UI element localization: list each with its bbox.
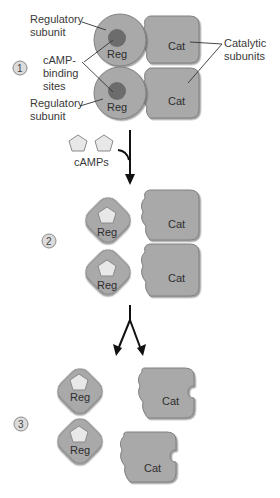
- step-2-label: 2: [46, 236, 52, 247]
- dissociation-arrow: [113, 305, 146, 356]
- camp-binding-site: [108, 29, 126, 47]
- camp-binding-site: [108, 82, 126, 100]
- catalytic-subunits-label: Catalytic subunits: [224, 37, 269, 62]
- pka-activation-diagram: Cat Cat Reg Reg Regulatory subunit cAMP-…: [0, 0, 280, 498]
- reg-label: Reg: [107, 101, 127, 113]
- cat-label: Cat: [168, 272, 185, 284]
- camp-molecule: [69, 135, 87, 151]
- regulatory-subunit-label-bottom: Regulatory subunit: [30, 97, 86, 122]
- active-catalytic-subunit: [120, 432, 176, 482]
- step-3-label: 3: [18, 419, 24, 430]
- reg-label: Reg: [70, 444, 90, 456]
- camp-join-arrow: [118, 150, 129, 160]
- cat-label: Cat: [168, 218, 185, 230]
- reg-label: Reg: [97, 226, 117, 238]
- camp-molecule: [95, 135, 113, 151]
- arrow-head-right: [137, 344, 146, 356]
- reg-label: Reg: [107, 48, 127, 60]
- catalytic-subunit: [141, 244, 199, 296]
- stage-2: Cat Cat Reg Reg 2: [42, 190, 199, 299]
- catalytic-subunit: [141, 190, 199, 240]
- camps-label: cAMPs: [74, 156, 109, 168]
- camp-addition: cAMPs: [69, 130, 135, 185]
- camp-binding-sites-label: cAMP- binding sites: [43, 54, 82, 92]
- cat-label: Cat: [168, 95, 185, 107]
- step-1-label: 1: [17, 63, 23, 74]
- cat-label: Cat: [144, 462, 161, 474]
- cat-label: Cat: [168, 40, 185, 52]
- down-arrow-1-head: [125, 174, 135, 185]
- reg-label: Reg: [70, 391, 90, 403]
- arrow-head-left: [113, 344, 122, 356]
- active-catalytic-subunit: [138, 368, 194, 418]
- stage-3: Reg Reg Cat Cat 3: [14, 364, 194, 482]
- catalytic-subunit: [142, 68, 199, 118]
- cat-label: Cat: [162, 395, 179, 407]
- stage-1: Cat Cat Reg Reg Regulatory subunit cAMP-…: [13, 13, 269, 122]
- regulatory-subunit-label-top: Regulatory subunit: [30, 13, 86, 38]
- reg-label: Reg: [97, 279, 117, 291]
